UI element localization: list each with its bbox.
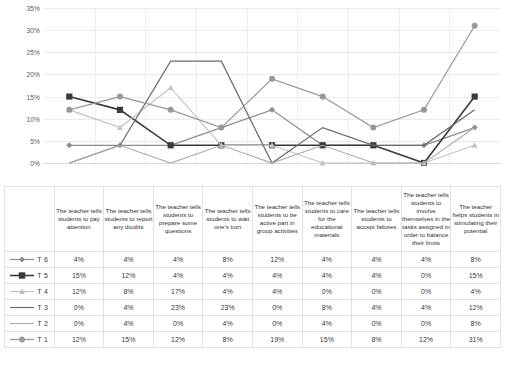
legend-entry-t6: T 6	[5, 252, 55, 268]
table-cell-value: 4%	[352, 300, 402, 316]
table-cell-value: 8%	[451, 252, 501, 268]
category-header: The teacher tells students to involve th…	[401, 187, 451, 252]
legend-marker-icon	[10, 303, 34, 313]
table-cell-value: 4%	[352, 268, 402, 284]
legend-marker-icon	[10, 335, 34, 345]
table-cell-value: 8%	[302, 300, 352, 316]
table-cell-value: 8%	[352, 332, 402, 348]
table-head: The teacher tells students to pay attent…	[5, 187, 501, 252]
chart-container: 35%30%25%20%15%10%5%0% The teacher tells…	[0, 0, 505, 377]
legend-entry-t5: T 5	[5, 268, 55, 284]
legend-entry-t1: T 1	[5, 332, 55, 348]
table-cell-value: 4%	[252, 268, 302, 284]
table-cell-value: 4%	[352, 252, 402, 268]
table-cell-value: 4%	[153, 268, 203, 284]
table-cell-value: 0%	[352, 284, 402, 300]
series-line-t5	[69, 97, 474, 163]
y-axis-tick: 10%	[27, 115, 41, 122]
table-cell-value: 4%	[302, 316, 352, 332]
category-header: The teacher helps students in stimulatin…	[451, 187, 501, 252]
y-axis-tick: 0%	[30, 160, 40, 167]
table-cell-value: 0%	[401, 284, 451, 300]
table-cell-value: 4%	[203, 316, 253, 332]
table-cell-value: 4%	[252, 284, 302, 300]
table-row: T 112%15%12%8%19%15%8%12%31%	[5, 332, 501, 348]
table-cell-value: 17%	[153, 284, 203, 300]
table-cell-value: 19%	[252, 332, 302, 348]
table-cell-value: 8%	[451, 316, 501, 332]
table-cell-value: 4%	[203, 284, 253, 300]
table-cell-value: 4%	[104, 316, 154, 332]
legend-label: T 1	[37, 336, 48, 343]
table-cell-value: 0%	[302, 284, 352, 300]
table-cell-value: 4%	[153, 252, 203, 268]
category-header: The teacher tells students to prepare so…	[153, 187, 203, 252]
data-point-marker	[168, 142, 174, 148]
category-header: The teacher tells students to report any…	[104, 187, 154, 252]
data-point-marker	[472, 93, 478, 99]
table-cell-value: 12%	[54, 332, 104, 348]
y-axis-tick: 20%	[27, 71, 41, 78]
table-cell-value: 4%	[302, 268, 352, 284]
y-axis: 35%30%25%20%15%10%5%0%	[0, 0, 44, 186]
table-cell-value: 0%	[401, 268, 451, 284]
category-header: The teacher tells students to be active …	[252, 187, 302, 252]
table-cell-value: 15%	[302, 332, 352, 348]
y-axis-tick: 35%	[27, 5, 41, 12]
data-point-marker	[472, 142, 478, 147]
table-cell-value: 0%	[252, 300, 302, 316]
data-point-marker	[320, 94, 326, 100]
category-header: The teacher tells students to care for t…	[302, 187, 352, 252]
data-table: The teacher tells students to pay attent…	[4, 186, 501, 348]
table-cell-value: 0%	[153, 316, 203, 332]
data-point-marker	[66, 142, 72, 148]
plot-area: 35%30%25%20%15%10%5%0%	[0, 0, 505, 186]
data-point-marker	[117, 94, 123, 100]
table-cell-value: 0%	[54, 316, 104, 332]
legend-entry-t2: T 2	[5, 316, 55, 332]
table-cell-value: 0%	[401, 316, 451, 332]
data-point-marker	[168, 85, 174, 90]
table-row: T 515%12%4%4%4%4%4%0%15%	[5, 268, 501, 284]
table-cell-value: 4%	[54, 252, 104, 268]
y-axis-tick: 25%	[27, 49, 41, 56]
table-cell-value: 4%	[104, 252, 154, 268]
table-cell-value: 8%	[104, 284, 154, 300]
data-point-marker	[66, 93, 72, 99]
legend-marker-icon	[10, 255, 34, 265]
table-cell-value: 4%	[401, 300, 451, 316]
table-cell-value: 0%	[54, 300, 104, 316]
legend-label: T 2	[37, 320, 48, 327]
table-cell-value: 8%	[203, 332, 253, 348]
table-row: T 30%4%23%23%0%8%4%4%12%	[5, 300, 501, 316]
legend-marker-icon	[10, 319, 34, 329]
table-cell-value: 4%	[104, 300, 154, 316]
series-lines	[44, 8, 500, 163]
table-cell-value: 15%	[451, 268, 501, 284]
data-point-marker	[168, 107, 174, 113]
header-corner	[5, 187, 55, 252]
table-cell-value: 15%	[104, 332, 154, 348]
data-point-marker	[472, 23, 478, 29]
legend-label: T 6	[37, 256, 48, 263]
grid-area	[44, 8, 500, 163]
legend-entry-t3: T 3	[5, 300, 55, 316]
data-point-marker	[421, 107, 427, 113]
table-cell-value: 15%	[54, 268, 104, 284]
legend-label: T 4	[37, 288, 48, 295]
table-cell-value: 12%	[252, 252, 302, 268]
y-axis-tick: 30%	[27, 27, 41, 34]
table-cell-value: 12%	[401, 332, 451, 348]
legend-marker-icon	[10, 271, 34, 281]
data-point-marker	[117, 107, 123, 113]
table-row: T 20%4%0%4%0%4%0%0%8%	[5, 316, 501, 332]
table-cell-value: 4%	[302, 252, 352, 268]
table-cell-value: 4%	[401, 252, 451, 268]
category-header: The teacher tells students to pay attent…	[54, 187, 104, 252]
y-axis-tick: 15%	[27, 93, 41, 100]
legend-label: T 3	[37, 304, 48, 311]
data-point-marker	[370, 125, 376, 131]
data-point-marker	[269, 76, 275, 82]
table-cell-value: 12%	[54, 284, 104, 300]
table-body: T 64%4%4%8%12%4%4%4%8%T 515%12%4%4%4%4%4…	[5, 252, 501, 348]
